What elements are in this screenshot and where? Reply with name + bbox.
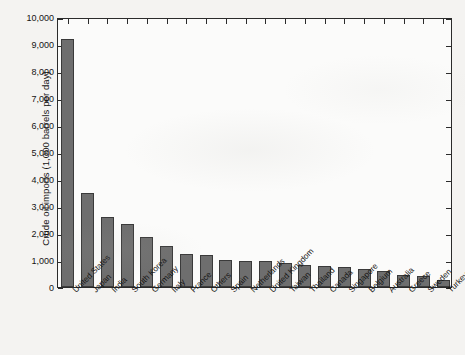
y-tick-label: 3,000 [10, 202, 54, 212]
plot-area [57, 18, 452, 288]
x-tick-label: South Korea [130, 288, 136, 294]
x-axis-tick-labels: United StatesJapanIndiaSouth KoreaGerman… [57, 288, 452, 355]
x-tick-label: Canada [328, 288, 334, 294]
x-tick-label: Sweden [426, 288, 432, 294]
y-tick-label: 8,000 [10, 67, 54, 77]
bar [61, 39, 74, 287]
bar-series [58, 19, 451, 287]
x-tick-label: India [110, 288, 116, 294]
y-tick-label: 5,000 [10, 148, 54, 158]
y-tick-label: 9,000 [10, 40, 54, 50]
x-tick-label: Belgium [367, 288, 373, 294]
x-tick-label: United Kingdom [268, 288, 274, 294]
x-tick-label: Others [209, 288, 215, 294]
y-tick-label: 4,000 [10, 175, 54, 185]
y-tick-label: 2,000 [10, 229, 54, 239]
y-tick-label: 0 [10, 283, 54, 293]
x-tick-label: Spain [229, 288, 235, 294]
x-tick-label: Turkey [446, 288, 452, 294]
x-tick-label: Japan [91, 288, 97, 294]
x-tick-label: Italy [170, 288, 176, 294]
x-tick-label: Singapore [347, 288, 353, 294]
y-axis-tick-labels: 10,0009,0008,0007,0006,0005,0004,0003,00… [8, 0, 54, 355]
x-tick-label: Greece [407, 288, 413, 294]
x-tick-label: Germany [150, 288, 156, 294]
bar-chart-figure: Crude oil imports (1,000 barrels per day… [0, 0, 465, 355]
x-tick-label: Thailand [308, 288, 314, 294]
y-tick-label: 6,000 [10, 121, 54, 131]
y-tick-label: 1,000 [10, 256, 54, 266]
x-tick-label: Netherlands [249, 288, 255, 294]
x-tick-label: France [189, 288, 195, 294]
x-tick-label: United States [71, 288, 77, 294]
x-tick-label: Australia [387, 288, 393, 294]
y-tick-label: 10,000 [10, 13, 54, 23]
x-tick-label: Taiwan [288, 288, 294, 294]
y-tick-label: 7,000 [10, 94, 54, 104]
